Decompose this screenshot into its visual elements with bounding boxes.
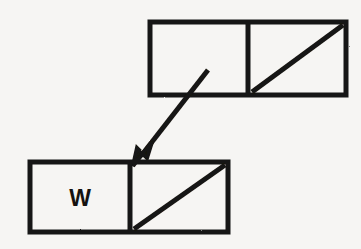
lower-pointer-slash-icon (134, 165, 225, 229)
diagram-svg: W (0, 0, 361, 249)
lower-node[interactable] (30, 162, 228, 232)
upper-pointer-slash-icon (252, 25, 343, 92)
upper-node[interactable] (150, 22, 346, 95)
lower-data-cell-label: W (69, 185, 91, 211)
pointer-arrow[interactable] (133, 70, 208, 166)
diagram-canvas: W (0, 0, 361, 249)
